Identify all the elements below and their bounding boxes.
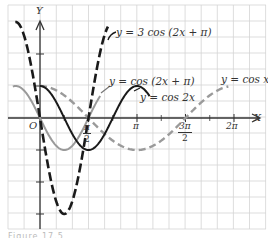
- curve-label-amp3: y = 3 cos (2x + π): [116, 27, 212, 38]
- curve-label-cosx: y = cos x: [221, 74, 268, 85]
- pointer-shifted: [101, 86, 110, 93]
- tick-den: 2: [182, 133, 188, 143]
- pointer-amp3: [108, 32, 116, 40]
- tick-label-pi: π: [133, 122, 139, 131]
- curve-label-shifted: y = cos (2x + π): [109, 76, 195, 87]
- tick-label-2pi: 2π: [226, 122, 238, 131]
- curve-label-cos2x: y = cos 2x: [140, 92, 195, 103]
- figure-caption: Figure 17.5: [8, 232, 64, 238]
- origin-label: O: [29, 121, 37, 131]
- tick-den: 2: [84, 134, 90, 144]
- x-axis-label: X: [254, 113, 261, 123]
- tick-label-pi-over-2: π 2: [83, 123, 91, 144]
- tick-num: 3π: [178, 122, 192, 133]
- tick-label-3pi-over-2: 3π 2: [178, 122, 192, 143]
- tick-num: π: [83, 123, 91, 134]
- y-axis-label: Y: [36, 6, 43, 16]
